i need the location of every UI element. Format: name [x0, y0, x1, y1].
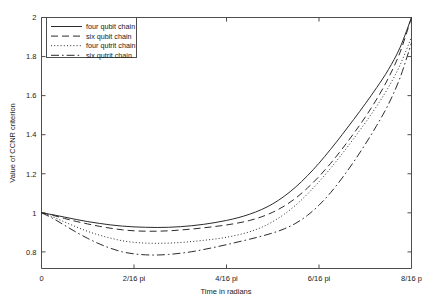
x-tick-label: 0 — [39, 274, 43, 283]
x-tick-label: 8/16 p — [401, 274, 422, 283]
curve-four-qutrit-chain — [42, 37, 412, 243]
y-tick-label: 1.2 — [26, 170, 36, 179]
legend-label-1: six qubit chain — [86, 32, 132, 41]
y-tick-label: 0.8 — [26, 248, 36, 257]
legend-label-3: six qutrit chain — [86, 51, 132, 60]
x-tick-label: 6/16 pi — [308, 274, 331, 283]
x-tick-label: 4/16 pi — [215, 274, 238, 283]
y-tick-labels: 0.811.21.41.61.82 — [26, 13, 36, 256]
y-axis-title: Value of CCNR criterion — [8, 103, 17, 182]
legend-label-2: four qutrit chain — [86, 41, 136, 50]
chart-plot: 0.811.21.41.61.82 02/16 pi4/16 pi6/16 pi… — [0, 0, 448, 306]
y-tick-label: 1.8 — [26, 52, 36, 61]
legend: four qubit chainsix qubit chainfour qutr… — [47, 18, 137, 61]
x-tick-label: 2/16 pi — [123, 274, 146, 283]
y-tick-label: 2 — [32, 13, 36, 22]
y-tick-label: 1.4 — [26, 130, 36, 139]
figure-canvas: 0.811.21.41.61.82 02/16 pi4/16 pi6/16 pi… — [0, 0, 448, 306]
legend-label-0: four qubit chain — [86, 22, 135, 31]
y-tick-label: 1 — [32, 209, 36, 218]
y-tick-label: 1.6 — [26, 91, 36, 100]
x-tick-labels: 02/16 pi4/16 pi6/16 pi8/16 p — [39, 274, 422, 283]
x-axis-title: Time in radians — [201, 287, 252, 296]
